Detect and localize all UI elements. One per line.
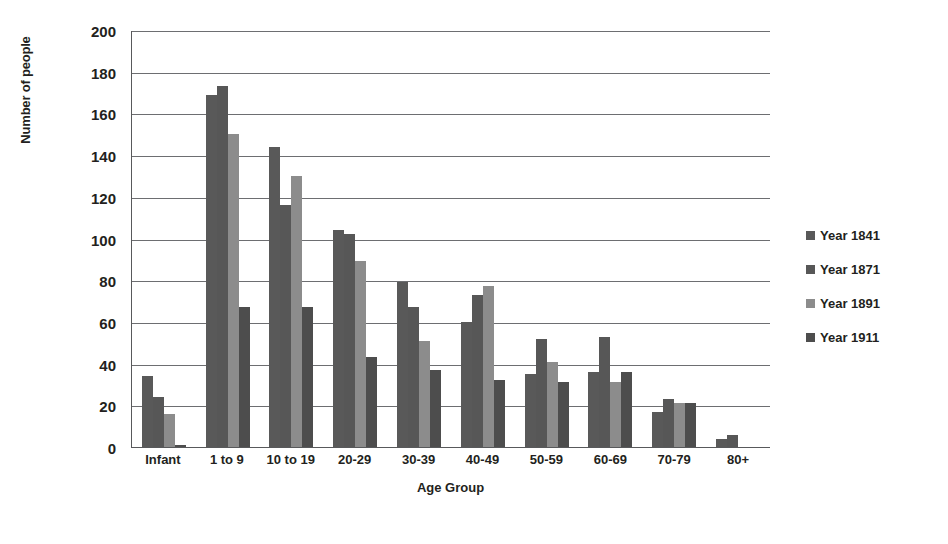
bar[interactable]	[558, 382, 569, 447]
bar[interactable]	[716, 439, 727, 447]
bar[interactable]	[153, 397, 164, 447]
bar[interactable]	[280, 205, 291, 447]
y-tick-label: 160	[91, 106, 116, 123]
x-axis-tick-labels: Infant1 to 910 to 1920-2930-3940-4950-59…	[131, 452, 770, 467]
x-tick-label: 60-69	[578, 452, 642, 467]
legend-swatch-icon	[806, 231, 815, 240]
bar-group	[579, 31, 643, 447]
bar[interactable]	[685, 403, 696, 447]
x-tick-label: 70-79	[642, 452, 706, 467]
bar-group	[451, 31, 515, 447]
legend-label: Year 1911	[820, 330, 879, 345]
legend-swatch-icon	[806, 299, 815, 308]
bar[interactable]	[175, 445, 186, 447]
bar[interactable]	[525, 374, 536, 447]
x-tick-label: 10 to 19	[259, 452, 323, 467]
bar[interactable]	[610, 382, 621, 447]
legend-item[interactable]: Year 1891	[806, 286, 936, 320]
plot-area	[131, 31, 770, 448]
bar[interactable]	[142, 376, 153, 447]
bar[interactable]	[674, 403, 685, 447]
legend: Year 1841Year 1871Year 1891Year 1911	[806, 218, 936, 354]
y-tick-label: 100	[91, 231, 116, 248]
bar[interactable]	[206, 95, 217, 447]
x-tick-label: 20-29	[323, 452, 387, 467]
bar-chart: Number of people 20018016014012010080604…	[0, 0, 948, 544]
bar-group	[260, 31, 324, 447]
bar[interactable]	[727, 435, 738, 448]
bar-group	[132, 31, 196, 447]
y-tick-label: 40	[99, 356, 116, 373]
y-tick-label: 140	[91, 148, 116, 165]
legend-item[interactable]: Year 1911	[806, 320, 936, 354]
legend-label: Year 1871	[820, 262, 880, 277]
bar-group	[642, 31, 706, 447]
x-tick-label: 40-49	[451, 452, 515, 467]
bar[interactable]	[269, 147, 280, 447]
bar[interactable]	[621, 372, 632, 447]
y-tick-label: 60	[99, 314, 116, 331]
bar[interactable]	[588, 372, 599, 447]
bar[interactable]	[419, 341, 430, 447]
bar-group	[196, 31, 260, 447]
bar[interactable]	[355, 261, 366, 447]
y-axis-tick-labels: 200180160140120100806040200	[46, 31, 124, 448]
legend-label: Year 1891	[820, 296, 880, 311]
bar[interactable]	[408, 307, 419, 447]
x-tick-label: 30-39	[387, 452, 451, 467]
bar[interactable]	[291, 176, 302, 447]
y-tick-label: 80	[99, 273, 116, 290]
bar-group	[387, 31, 451, 447]
bar[interactable]	[536, 339, 547, 447]
y-tick-label: 180	[91, 64, 116, 81]
bar[interactable]	[599, 337, 610, 448]
bar-group	[323, 31, 387, 447]
bar[interactable]	[461, 322, 472, 447]
x-tick-label: 80+	[706, 452, 770, 467]
bar-group	[706, 31, 770, 447]
x-tick-label: 50-59	[514, 452, 578, 467]
x-tick-label: 1 to 9	[195, 452, 259, 467]
bar[interactable]	[494, 380, 505, 447]
bar[interactable]	[472, 295, 483, 447]
legend-item[interactable]: Year 1841	[806, 218, 936, 252]
y-tick-label: 120	[91, 189, 116, 206]
bar[interactable]	[547, 362, 558, 447]
bar[interactable]	[430, 370, 441, 447]
legend-label: Year 1841	[820, 228, 880, 243]
x-tick-label: Infant	[131, 452, 195, 467]
bar[interactable]	[217, 86, 228, 447]
legend-item[interactable]: Year 1871	[806, 252, 936, 286]
bar[interactable]	[397, 282, 408, 447]
bar[interactable]	[228, 134, 239, 447]
bar-group	[515, 31, 579, 447]
bar[interactable]	[302, 307, 313, 447]
y-tick-label: 20	[99, 398, 116, 415]
bar[interactable]	[483, 286, 494, 447]
y-tick-label: 0	[108, 440, 116, 457]
bar[interactable]	[164, 414, 175, 447]
y-tick-label: 200	[91, 23, 116, 40]
bar[interactable]	[239, 307, 250, 447]
legend-swatch-icon	[806, 333, 815, 342]
bar[interactable]	[344, 234, 355, 447]
bar[interactable]	[663, 399, 674, 447]
bar[interactable]	[366, 357, 377, 447]
legend-swatch-icon	[806, 265, 815, 274]
y-axis-title: Number of people	[18, 10, 33, 170]
bar[interactable]	[333, 230, 344, 447]
bar-groups	[132, 31, 770, 447]
bar[interactable]	[652, 412, 663, 447]
x-axis-title: Age Group	[131, 480, 770, 495]
